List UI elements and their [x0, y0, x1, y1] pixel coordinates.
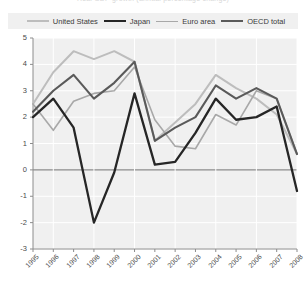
legend-item-united_states: United States	[21, 17, 98, 26]
chart-legend: United StatesJapanEuro areaOECD total	[8, 13, 298, 29]
legend-swatch-japan	[104, 20, 126, 22]
legend-swatch-euro_area	[156, 21, 178, 22]
y-axis-label-4: 4	[13, 59, 27, 68]
legend-swatch-oecd_total	[221, 20, 243, 22]
y-axis-label--2: -2	[13, 218, 27, 227]
y-axis-label--3: -3	[13, 244, 27, 253]
series-line-japan	[33, 93, 297, 222]
y-axis-label-2: 2	[13, 112, 27, 121]
chart-svg	[0, 29, 306, 284]
legend-item-euro_area: Euro area	[150, 17, 215, 26]
legend-item-japan: Japan	[98, 17, 150, 26]
legend-label-oecd_total: OECD total	[247, 17, 285, 26]
series-line-euro-area	[33, 67, 297, 154]
chart-screenshot: Real GDP growth (annual percentage chang…	[0, 0, 306, 284]
y-axis-label-0: 0	[13, 165, 27, 174]
chart-title-clipped: Real GDP growth (annual percentage chang…	[0, 0, 306, 9]
plot-area: -3-2-1012345 199519961997199819992000200…	[0, 29, 306, 284]
y-axis-label-1: 1	[13, 139, 27, 148]
y-axis-label-3: 3	[13, 86, 27, 95]
legend-label-japan: Japan	[130, 17, 150, 26]
chart-title-text: Real GDP growth (annual percentage chang…	[77, 0, 229, 2]
y-axis-label--1: -1	[13, 191, 27, 200]
legend-swatch-united_states	[27, 20, 49, 22]
legend-item-oecd_total: OECD total	[215, 17, 285, 26]
legend-label-united_states: United States	[53, 17, 98, 26]
legend-label-euro_area: Euro area	[182, 17, 215, 26]
series-line-oecd-total	[33, 62, 297, 154]
y-axis-label-5: 5	[13, 33, 27, 42]
